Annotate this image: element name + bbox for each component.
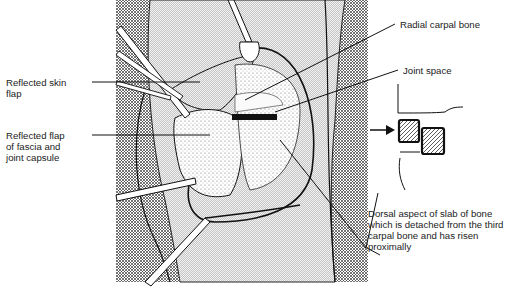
- label-joint-space: Joint space: [403, 65, 452, 76]
- carpal-bone-a: [399, 120, 419, 142]
- label-reflected-fascia-flap: Reflected flap of fascia and joint capsu…: [6, 130, 65, 163]
- joint-space: [232, 114, 277, 120]
- label-radial-carpal-bone: Radial carpal bone: [400, 19, 480, 30]
- figure: Reflected skin flap Reflected flap of fa…: [0, 0, 524, 290]
- inset-diagram: [370, 84, 463, 190]
- label-dorsal-slab: Dorsal aspect of slab of bone which is d…: [368, 208, 503, 252]
- carpal-bone-b: [422, 128, 444, 154]
- right-arrow-icon: [386, 125, 395, 135]
- label-reflected-skin-flap: Reflected skin flap: [6, 77, 66, 99]
